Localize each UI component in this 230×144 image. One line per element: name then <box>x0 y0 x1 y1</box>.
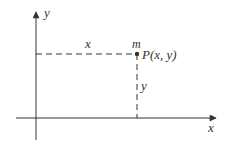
x-axis-label: x <box>207 120 214 135</box>
horizontal-distance-label: x <box>84 36 91 51</box>
point-label: P(x, y) <box>141 47 177 62</box>
point-p-marker <box>135 52 139 56</box>
mass-label: m <box>132 37 141 51</box>
vertical-distance-label: y <box>139 78 147 93</box>
coordinate-diagram: y x x y m P(x, y) <box>0 0 230 144</box>
y-axis-label: y <box>42 5 50 20</box>
